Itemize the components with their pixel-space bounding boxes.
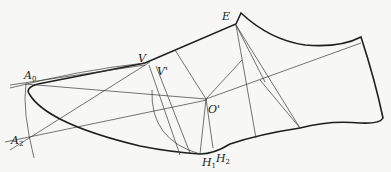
upper-outline (28, 13, 383, 154)
line-e-down-3 (236, 25, 300, 128)
label-h2: H2 (215, 152, 230, 166)
label-h1: H1 (201, 156, 216, 170)
line-e-down-1 (236, 25, 256, 138)
label-a0: A0 (23, 69, 36, 83)
label-vprime: V' (157, 65, 168, 78)
line-upper-to-oprime (175, 50, 206, 99)
radius-arc-v (152, 90, 200, 154)
line-oprime-right (206, 43, 361, 99)
line-right-cross (260, 80, 300, 128)
line-a0-oprime (25, 84, 206, 99)
label-oprime: O' (208, 103, 220, 116)
line-e-down-2 (236, 25, 265, 82)
line-a2-right (5, 100, 207, 142)
line-oprime-h1 (200, 99, 206, 154)
shoe-last-diagram: A0 A2 V V' E O' H1 H2 (0, 0, 391, 172)
line-oprime-e-branch (206, 60, 242, 99)
label-v: V (138, 52, 147, 65)
label-e: E (221, 10, 230, 23)
label-a2: A2 (10, 134, 23, 148)
